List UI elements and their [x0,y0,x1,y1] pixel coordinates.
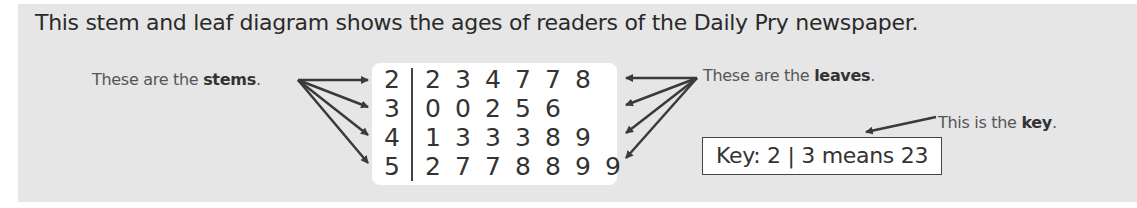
key-arrow-icon [866,117,936,132]
arrows-overlay [0,0,1137,208]
stem-arrows-icon [298,80,368,163]
leaf-arrows-icon [626,78,697,158]
